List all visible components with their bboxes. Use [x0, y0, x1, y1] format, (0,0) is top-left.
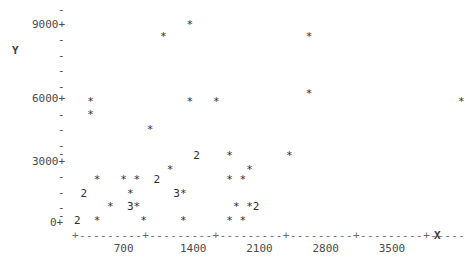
y-tick-mark: - — [58, 34, 65, 45]
y-tick-mark: - — [58, 171, 65, 182]
y-tick-label-0: 0+ — [50, 217, 63, 228]
plot-row: * — [74, 19, 193, 30]
x-axis-line: +---------+---------+---------+---------… — [72, 230, 465, 241]
y-axis-label: Y — [12, 45, 19, 56]
y-tick-label-6000: 6000+ — [32, 93, 65, 104]
plot-row: * 3* * *2 — [74, 201, 259, 212]
x-tick-labels: 700 1400 2100 2800 3500 — [74, 243, 405, 254]
y-tick-mark: - — [58, 124, 65, 135]
y-tick-mark: - — [58, 187, 65, 198]
plot-row: 2 * 3* — [74, 188, 187, 199]
y-tick-mark: - — [58, 4, 65, 15]
plot-row: 2 * * * * * — [74, 215, 246, 226]
plot-row: * * * * — [74, 96, 465, 107]
y-tick-label-3000: 3000+ — [32, 156, 65, 167]
plot-row: * — [74, 124, 153, 135]
x-axis-label: X — [434, 230, 441, 241]
plot-row: * — [74, 109, 94, 120]
plot-row: * * * 2 * * — [74, 174, 246, 185]
plot-row: 2 * * — [74, 150, 293, 161]
plot-row: * * — [74, 31, 312, 42]
y-tick-mark: - — [58, 81, 65, 92]
y-tick-mark: - — [58, 109, 65, 120]
y-tick-mark: - — [58, 65, 65, 76]
y-tick-mark: - — [58, 50, 65, 61]
y-tick-label-9000: 9000+ — [32, 19, 65, 30]
